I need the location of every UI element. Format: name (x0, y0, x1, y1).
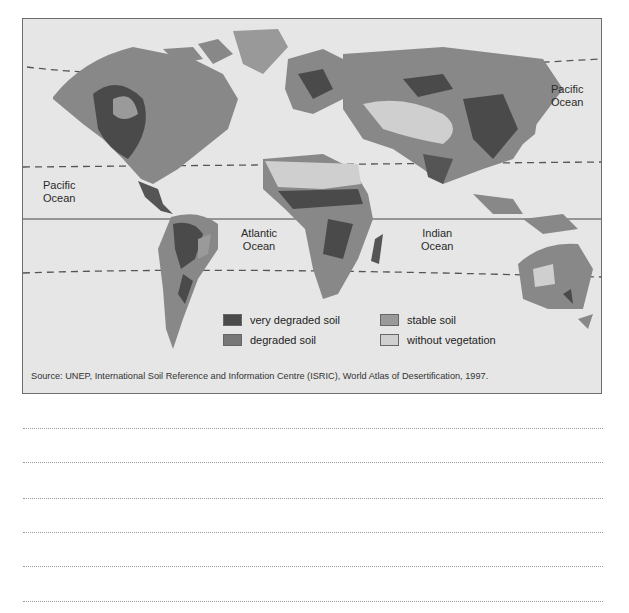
answer-line-6[interactable] (23, 601, 603, 602)
source-citation: Source: UNEP, International Soil Referen… (31, 371, 488, 381)
answer-line-3[interactable] (23, 498, 603, 499)
swatch-stable (380, 314, 399, 326)
legend-item-very-degraded: very degraded soil (223, 314, 340, 326)
soil-degradation-map: PacificOcean PacificOcean AtlanticOcean … (22, 18, 602, 394)
legend-item-stable: stable soil (380, 314, 456, 326)
swatch-very-degraded (223, 314, 242, 326)
swatch-degraded (223, 334, 242, 346)
ocean-label-atlantic: AtlanticOcean (241, 227, 277, 253)
legend-item-degraded: degraded soil (223, 334, 316, 346)
swatch-without-vegetation (380, 334, 399, 346)
answer-line-4[interactable] (23, 532, 603, 533)
map-legend: very degraded soil stable soil degraded … (223, 314, 553, 350)
ocean-label-pacific-west: PacificOcean (43, 179, 75, 205)
legend-item-without-vegetation: without vegetation (380, 334, 496, 346)
answer-line-5[interactable] (23, 566, 603, 567)
ocean-label-pacific-east: PacificOcean (551, 83, 583, 109)
answer-line-1[interactable] (23, 428, 603, 429)
answer-line-2[interactable] (23, 462, 603, 463)
ocean-label-indian: IndianOcean (421, 227, 453, 253)
